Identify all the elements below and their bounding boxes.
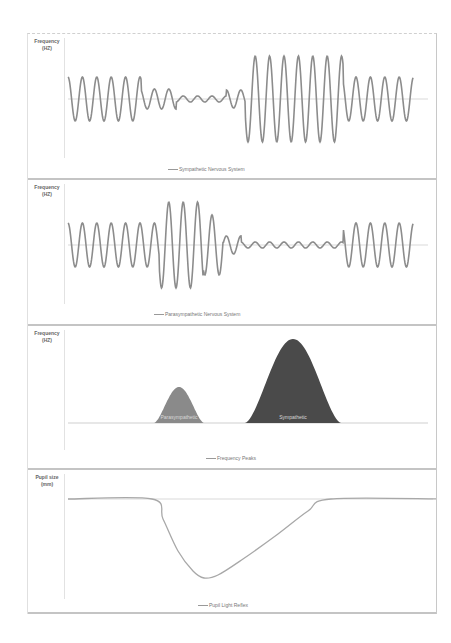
peak-label: Parasympathetic [160,414,198,420]
frequency-peaks-plot: ParasympatheticSympathetic [28,326,436,470]
panel-sympathetic: Frequency (HZ) Sympathetic Nervous Syste… [28,34,436,180]
legend-swatch [198,605,208,606]
legend-label: Sympathetic Nervous System [179,166,245,172]
figure: Frequency (HZ) Sympathetic Nervous Syste… [27,33,437,614]
legend-label: Pupil Light Reflex [209,602,248,608]
legend: Frequency Peaks [206,455,256,461]
pupil-curve [68,498,436,579]
legend-swatch [168,169,178,170]
panel-pupil-light-reflex: Pupil size (mm) Pupil Light Reflex [28,470,436,614]
legend-swatch [154,314,164,315]
sympathetic-wave-plot [28,34,436,180]
parasympathetic-wave-plot [28,180,436,326]
peak-label: Sympathetic [279,414,307,420]
panel-frequency-peaks: Frequency (HZ) ParasympatheticSympatheti… [28,326,436,470]
legend: Pupil Light Reflex [198,602,248,608]
peak-sympathetic [245,339,341,423]
legend: Parasympathetic Nervous System [154,311,240,317]
legend-label: Frequency Peaks [217,455,256,461]
legend-label: Parasympathetic Nervous System [165,311,240,317]
panel-parasympathetic: Frequency (HZ) Parasympathetic Nervous S… [28,180,436,326]
legend: Sympathetic Nervous System [168,166,245,172]
pupil-reflex-plot [28,470,436,614]
legend-swatch [206,458,216,459]
